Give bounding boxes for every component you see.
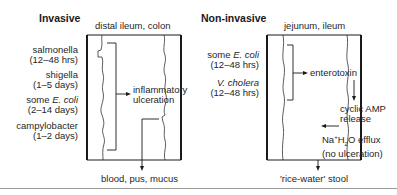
- non-invasive-bracket: [287, 45, 293, 100]
- arrow-to-blood-icon: [140, 166, 144, 171]
- arrow-to-enterotoxin-icon: [303, 71, 308, 75]
- invasive-site: distal ileum, colon: [95, 21, 171, 31]
- bottom-divider: [0, 188, 397, 189]
- effect-line2: ulceration: [133, 95, 187, 105]
- arrow-to-ulceration-icon: [126, 92, 131, 96]
- efflux-label: Na+H2O efflux (no ulceration): [322, 132, 383, 159]
- arrow-to-camp-icon: [352, 96, 356, 101]
- non-invasive-site: jejunum, ileum: [284, 21, 345, 31]
- efflux-line1: Na+H2O efflux: [322, 132, 383, 149]
- organism-e-coli-non-invasive: some E. coli (12–48 hrs): [207, 50, 259, 70]
- organism-duration: (2–14 days): [26, 105, 78, 115]
- organism-v-cholera: V. cholera (12–48 hrs): [210, 78, 259, 98]
- efflux-line2: (no ulceration): [322, 149, 383, 159]
- efflux-h: H: [338, 134, 345, 145]
- efflux-na: Na: [322, 134, 334, 145]
- non-invasive-title: Non-invasive: [201, 13, 266, 23]
- non-invasive-mucosa-left: [282, 35, 284, 160]
- organism-shigella: shigella (1–5 days): [33, 70, 78, 90]
- organism-duration: (1–5 days): [33, 80, 78, 90]
- inflammatory-ulceration-label: inflammatory ulceration: [133, 85, 187, 105]
- invasive-output: blood, pus, mucus: [101, 174, 178, 184]
- non-invasive-output: 'rice-water' stool: [280, 174, 348, 184]
- enterotoxin-label: enterotoxin: [310, 68, 357, 78]
- organism-duration: (1–2 days): [16, 131, 78, 141]
- arrow-efflux-icon: [321, 124, 326, 128]
- camp-release-label: cyclic AMP release: [340, 104, 386, 124]
- organism-duration: (12–48 hrs): [210, 88, 259, 98]
- efflux-rest: O efflux: [348, 134, 381, 145]
- organism-e-coli-invasive: some E. coli (2–14 days): [26, 95, 78, 115]
- arrow-to-stool-icon: [316, 166, 320, 171]
- organism-salmonella: salmonella (12–48 hrs): [29, 45, 78, 65]
- invasive-mucosa-left: [98, 35, 104, 160]
- organism-campylobacter: campylobacter (1–2 days): [16, 121, 78, 141]
- organism-duration: (12–48 hrs): [29, 55, 78, 65]
- invasive-title: Invasive: [39, 13, 80, 23]
- organism-duration: (12–48 hrs): [207, 60, 259, 70]
- camp-line2: release: [340, 114, 386, 124]
- invasive-bracket: [107, 43, 116, 150]
